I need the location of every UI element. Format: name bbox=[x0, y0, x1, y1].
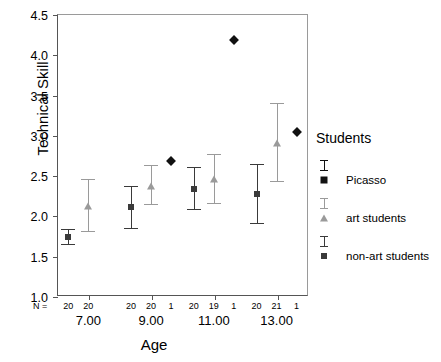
data-point-marker bbox=[210, 176, 218, 183]
x-axis-tick bbox=[215, 295, 216, 300]
error-bar-cap-lower bbox=[187, 209, 201, 210]
y-axis-tick: 1.0 bbox=[53, 297, 58, 298]
data-point-marker bbox=[254, 191, 260, 197]
y-axis-tick: 4.5 bbox=[53, 15, 58, 16]
data-point-marker bbox=[84, 202, 92, 209]
x-axis-tick bbox=[89, 295, 90, 300]
y-axis-tick-label: 4.0 bbox=[31, 49, 48, 63]
n-value: 1 bbox=[294, 301, 299, 311]
n-value: 20 bbox=[126, 301, 136, 311]
data-point-marker bbox=[128, 204, 134, 210]
legend-entry[interactable]: Picasso bbox=[316, 160, 441, 198]
legend-cap-lower bbox=[320, 246, 328, 247]
y-axis-tick: 3.0 bbox=[53, 136, 58, 137]
legend-marker-icon bbox=[321, 177, 328, 184]
legend-label: Picasso bbox=[346, 174, 386, 186]
y-axis-tick: 1.5 bbox=[53, 257, 58, 258]
legend-entries: Picassoart studentsnon-art students bbox=[316, 160, 441, 274]
y-axis-tick: 2.0 bbox=[53, 216, 58, 217]
n-value: 20 bbox=[189, 301, 199, 311]
error-bar-cap-lower bbox=[270, 181, 284, 182]
n-value: 20 bbox=[252, 301, 262, 311]
error-bar-cap-lower bbox=[250, 223, 264, 224]
plot-area: 1.01.52.02.53.03.54.04.5 bbox=[57, 14, 308, 296]
error-bar-cap-lower bbox=[81, 231, 95, 232]
n-row-label: N = bbox=[33, 301, 47, 311]
legend-label: art students bbox=[346, 212, 406, 224]
y-axis-tick-label: 1.5 bbox=[31, 251, 48, 265]
legend-label: non-art students bbox=[346, 250, 429, 262]
y-axis-tick: 4.0 bbox=[53, 55, 58, 56]
x-axis-group-label: 7.00 bbox=[76, 313, 101, 328]
y-axis-tick-label: 3.0 bbox=[31, 130, 48, 144]
data-point-marker bbox=[273, 139, 281, 146]
error-bar-cap-lower bbox=[207, 203, 221, 204]
chart-root: Technical Skill 1.01.52.02.53.03.54.04.5… bbox=[0, 0, 441, 362]
legend-marker-icon bbox=[320, 215, 328, 222]
error-bar-cap-lower bbox=[144, 204, 158, 205]
n-value: 1 bbox=[169, 301, 174, 311]
n-value: 20 bbox=[146, 301, 156, 311]
legend-cap-lower bbox=[320, 208, 328, 209]
n-value: 20 bbox=[63, 301, 73, 311]
data-point-marker bbox=[191, 186, 197, 192]
data-point-marker bbox=[65, 234, 71, 240]
y-axis-tick: 3.5 bbox=[53, 96, 58, 97]
y-axis-tick-label: 2.5 bbox=[31, 170, 48, 184]
error-bar-cap-lower bbox=[61, 244, 75, 245]
y-axis-tick: 2.5 bbox=[53, 176, 58, 177]
legend-entry[interactable]: non-art students bbox=[316, 236, 441, 274]
x-axis-group-label: 13.00 bbox=[260, 313, 293, 328]
n-value: 21 bbox=[272, 301, 282, 311]
x-axis-title: Age bbox=[0, 336, 308, 353]
data-point-marker bbox=[147, 182, 155, 189]
y-axis-tick-label: 2.0 bbox=[31, 210, 48, 224]
error-bar-cap-lower bbox=[124, 228, 138, 229]
n-value: 20 bbox=[83, 301, 93, 311]
x-axis-group-label: 11.00 bbox=[198, 313, 230, 328]
y-axis-tick-label: 3.5 bbox=[31, 90, 48, 104]
legend-entry[interactable]: art students bbox=[316, 198, 441, 236]
y-axis-tick-label: 4.5 bbox=[31, 9, 48, 23]
n-value: 1 bbox=[231, 301, 236, 311]
legend-title: Students bbox=[316, 130, 441, 146]
x-axis-tick bbox=[278, 295, 279, 300]
x-axis-tick bbox=[152, 295, 153, 300]
legend-marker-icon bbox=[321, 253, 327, 259]
legend-cap-lower bbox=[320, 170, 328, 171]
n-value: 19 bbox=[209, 301, 219, 311]
legend: Students Picassoart studentsnon-art stud… bbox=[316, 130, 441, 274]
x-axis-group-label: 9.00 bbox=[138, 313, 163, 328]
